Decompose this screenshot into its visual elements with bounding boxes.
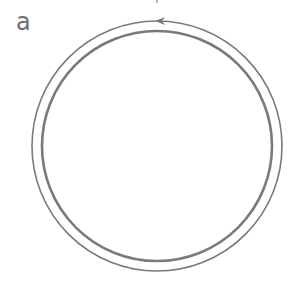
inner-circle: [42, 31, 272, 261]
outer-circle: [32, 21, 282, 271]
concentric-circles-diagram: [0, 0, 302, 283]
